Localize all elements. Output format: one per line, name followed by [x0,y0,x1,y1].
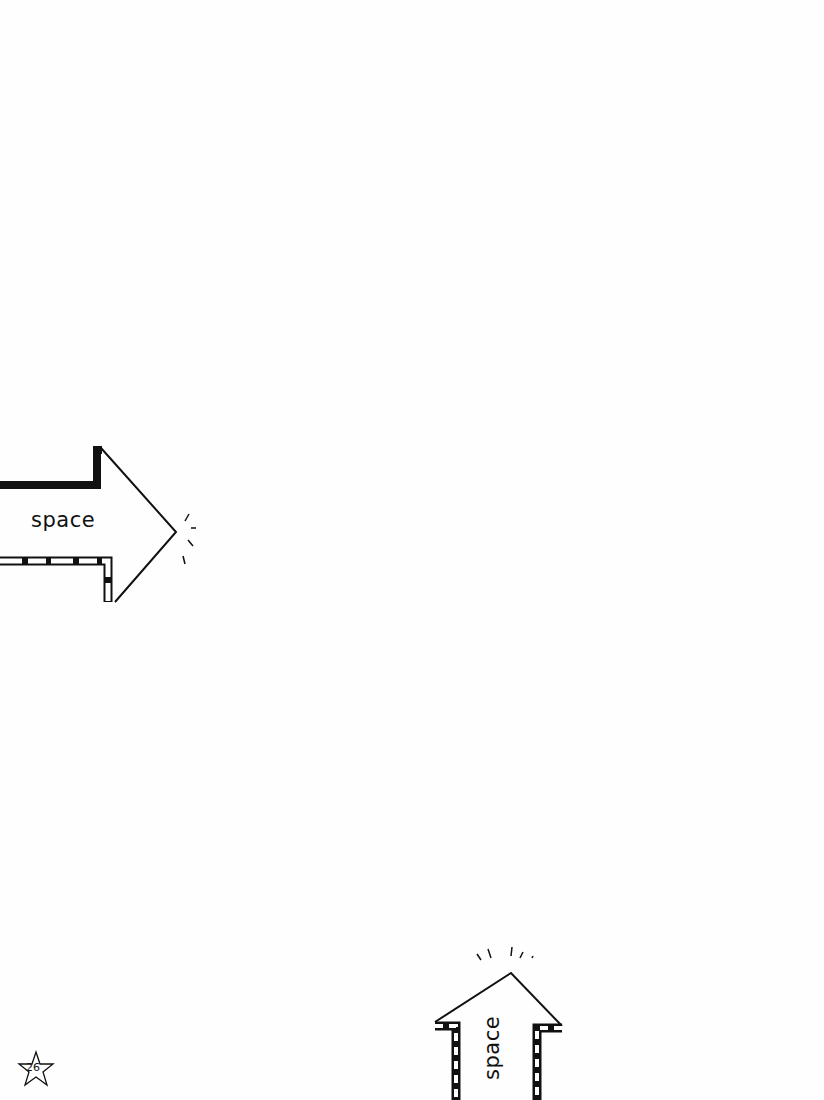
up-arrow-label: space [480,1016,504,1080]
up-arrow-icon [420,930,590,1100]
right-arrow-label: space [31,508,95,532]
activity-page: space space 26 [0,0,824,1100]
page-number: 26 [26,1061,40,1074]
